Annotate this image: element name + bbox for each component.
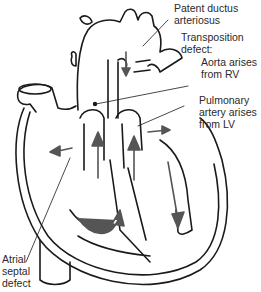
- leader-pda: [143, 20, 168, 46]
- arrow-down-pda: [122, 52, 130, 76]
- arrow-up-aorta: [92, 132, 104, 178]
- heart-diagram: Patent ductus arteriosus Transposition d…: [0, 0, 261, 292]
- pulmonary-valve-region: [116, 110, 142, 168]
- leader-aorta: [96, 86, 188, 104]
- label-atrial-septal-defect: Atrial septal defect: [2, 253, 31, 289]
- aorta-marker: [94, 103, 97, 106]
- arrow-curve-rv: [78, 210, 124, 233]
- label-pulmonary-artery-arises-from-lv: Pulmonary artery arises from LV: [199, 94, 257, 130]
- label-transposition-defect: Transposition defect:: [181, 31, 244, 55]
- svc-opening: [19, 84, 51, 94]
- aortic-arch: [77, 9, 182, 110]
- pulmonary-trunk: [108, 60, 118, 118]
- arrow-right-la: [148, 126, 170, 134]
- leader-pulmonary: [138, 106, 184, 126]
- arrow-down-lv: [168, 162, 184, 228]
- label-patent-ductus-arteriosus: Patent ductus arteriosus: [174, 2, 238, 26]
- superior-vena-cava: [18, 85, 76, 112]
- vessel-stub: [80, 16, 92, 24]
- label-aorta-arises-from-rv: Aorta arises from RV: [201, 56, 257, 80]
- heart-inner-wall: [24, 112, 219, 275]
- arrow-left-asd: [50, 146, 72, 156]
- vessel-nub: [71, 52, 76, 66]
- ventricular-septum: [110, 160, 150, 262]
- leader-asd: [26, 158, 70, 262]
